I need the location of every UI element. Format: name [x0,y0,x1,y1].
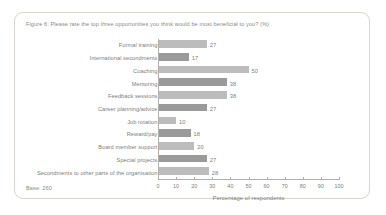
bar-value-label: 20 [197,144,203,150]
category-label: Coaching [133,67,157,74]
bar-track: 17 [158,52,368,65]
category-label: Career planning/advice [98,105,158,112]
bar-value-label: 10 [179,119,185,125]
bar-track: 20 [158,141,368,154]
bar-track: 38 [158,90,368,103]
category-label: Special projects [117,156,158,163]
bar-value-label: 18 [194,131,200,137]
bar-track: 38 [158,77,368,90]
bar-row: Coaching50 [15,64,371,77]
x-axis-tick-label: 80 [300,183,306,189]
bar-row: Formal training27 [15,39,371,52]
bar-value-label: 27 [210,157,216,163]
bar-chart-plot-area: Formal training27International secondmen… [15,39,371,179]
x-axis-tick-label: 10 [173,183,179,189]
bar [158,78,227,86]
base-note: Base: 260 [26,185,52,191]
bar-row: Board member support20 [15,141,371,154]
bar [158,117,176,125]
bar-row: International secondments17 [15,52,371,65]
figure-card: Figure 6: Please rate the top three oppo… [14,12,370,199]
bar-row: Secondments to other parts of the organi… [15,166,371,179]
y-axis-line [158,39,159,179]
x-axis-tick-label: 50 [245,183,251,189]
bar-track: 10 [158,115,368,128]
x-axis-tick [194,177,195,180]
x-axis-tick [267,177,268,180]
bar-value-label: 28 [212,170,218,176]
bar [158,142,194,150]
bar-track: 50 [158,64,368,77]
x-axis-tick [321,177,322,180]
figure-title: Figure 6: Please rate the top three oppo… [26,20,356,28]
x-axis-tick-label: 30 [209,183,215,189]
x-axis: 0102030405060708090100 [158,179,368,180]
category-label: Formal training [119,42,158,49]
category-label: International secondments [90,55,158,62]
category-label: Reward/pay [127,131,158,138]
bar-value-label: 17 [192,55,198,61]
x-axis-tick [176,177,177,180]
x-axis-tick-label: 100 [334,183,343,189]
category-label: Mentoring [132,80,158,87]
bar [158,53,189,61]
bar-row: Mentoring38 [15,77,371,90]
x-axis-tick-label: 90 [318,183,324,189]
bar-track: 27 [158,153,368,166]
bar-track: 18 [158,128,368,141]
bar-value-label: 38 [230,93,236,99]
x-axis-tick [303,177,304,180]
bar [158,40,207,48]
bar [158,91,227,99]
bar-track: 27 [158,103,368,116]
x-axis-tick-label: 40 [227,183,233,189]
x-axis-tick [249,177,250,180]
bar-value-label: 50 [252,68,258,74]
category-label: Board member support [98,144,157,151]
bar-value-label: 27 [210,106,216,112]
category-label: Secondments to other parts of the organi… [37,169,158,176]
bar-value-label: 38 [230,81,236,87]
x-axis-tick [339,177,340,180]
x-axis-tick-label: 0 [156,183,159,189]
bar-row: Job rotation10 [15,115,371,128]
bar-row: Special projects27 [15,153,371,166]
x-axis-tick [212,177,213,180]
bar [158,167,209,175]
x-axis-title: Percentage of respondents [158,195,339,201]
x-axis-tick-label: 70 [282,183,288,189]
bar [158,66,249,74]
bar-row: Feedback sessions38 [15,90,371,103]
x-axis-tick-label: 60 [264,183,270,189]
x-axis-tick [158,177,159,180]
category-label: Job rotation [127,118,157,125]
bar [158,104,207,112]
bar-track: 28 [158,166,368,179]
bar-value-label: 27 [210,42,216,48]
category-label: Feedback sessions [108,93,158,100]
x-axis-tick [285,177,286,180]
bar-track: 27 [158,39,368,52]
x-axis-tick-label: 20 [191,183,197,189]
bar-row: Reward/pay18 [15,128,371,141]
bar-row: Career planning/advice27 [15,103,371,116]
x-axis-tick [230,177,231,180]
bar [158,155,207,163]
bar [158,129,191,137]
